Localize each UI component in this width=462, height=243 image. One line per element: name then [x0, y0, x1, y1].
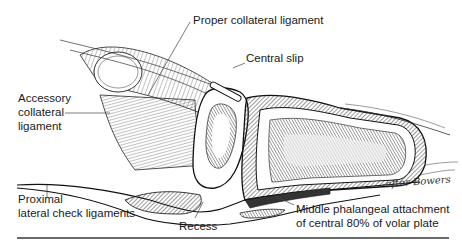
label-accessory-collateral-line3: ligament [18, 120, 61, 133]
label-accessory-collateral-line1: Accessory [18, 92, 71, 105]
label-proximal-check-line2: lateral check ligaments [18, 207, 135, 220]
anatomy-figure: Proper collateral ligament Central slip … [0, 0, 462, 243]
label-proximal-check-line1: Proximal [18, 193, 63, 206]
label-proper-collateral-ligament: Proper collateral ligament [193, 14, 323, 27]
label-middle-phalangeal-line1: Middle phalangeal attachment [296, 203, 449, 216]
label-recess: Recess [179, 220, 217, 233]
label-central-slip: Central slip [246, 52, 304, 65]
bottom-divider [17, 237, 449, 239]
label-middle-phalangeal-line2: of central 80% of volar plate [296, 217, 439, 230]
label-accessory-collateral-line2: collateral [18, 106, 64, 119]
condyle [193, 88, 248, 188]
